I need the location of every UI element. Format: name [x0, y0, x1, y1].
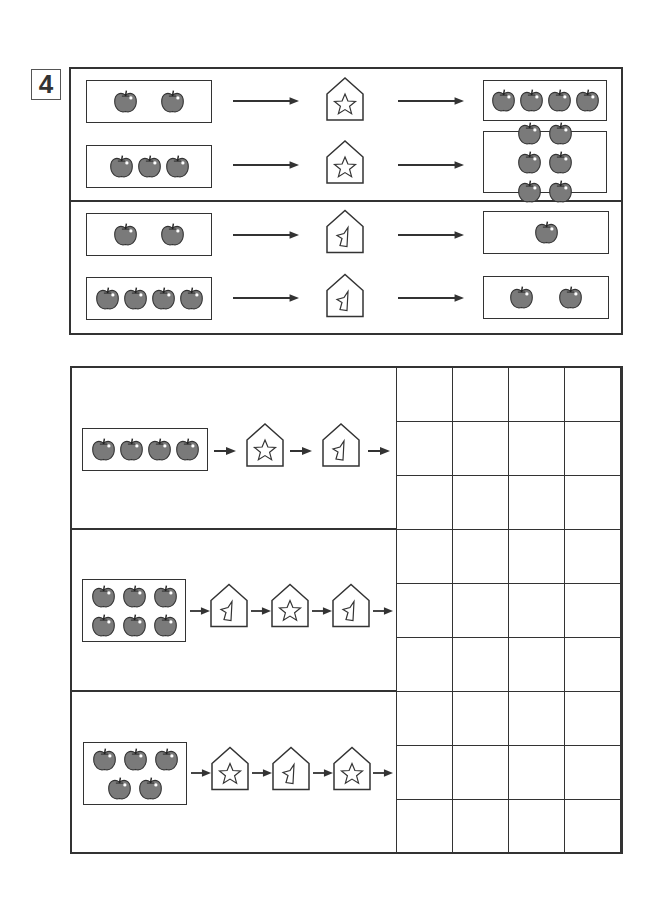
- answer-cell[interactable]: [397, 800, 453, 854]
- apple-icon: [90, 436, 117, 463]
- arrow-icon: [398, 230, 464, 240]
- answer-cell[interactable]: [565, 800, 621, 854]
- star-machine-icon: [332, 745, 372, 792]
- answer-cell[interactable]: [397, 692, 453, 746]
- apple-icon: [547, 149, 574, 176]
- arrow-icon: [373, 768, 393, 778]
- arrow-icon: [233, 230, 299, 240]
- answer-cell[interactable]: [397, 422, 453, 476]
- example-1-output: [483, 80, 607, 121]
- apple-icon: [174, 436, 201, 463]
- answer-cell[interactable]: [565, 422, 621, 476]
- arrow-icon: [252, 768, 272, 778]
- broken-star-machine-icon: [325, 208, 365, 255]
- apple-icon: [547, 120, 574, 147]
- answer-cell[interactable]: [453, 746, 509, 800]
- star-machine-icon: [210, 745, 250, 792]
- example-4-output: [483, 276, 609, 319]
- apple-icon: [557, 284, 584, 311]
- example-3-output: [483, 211, 609, 254]
- answer-cell[interactable]: [565, 476, 621, 530]
- apple-icon: [574, 87, 601, 114]
- apple-icon: [516, 178, 543, 205]
- answer-cell[interactable]: [565, 692, 621, 746]
- apple-icon: [122, 746, 149, 773]
- example-2-output: [483, 131, 607, 193]
- task-divider: [71, 528, 397, 530]
- apple-icon: [106, 775, 133, 802]
- answer-cell[interactable]: [509, 692, 565, 746]
- arrow-icon: [373, 606, 393, 616]
- answer-cell[interactable]: [509, 584, 565, 638]
- answer-cell[interactable]: [565, 530, 621, 584]
- answer-cell[interactable]: [509, 422, 565, 476]
- answer-cell[interactable]: [509, 746, 565, 800]
- answer-cell[interactable]: [509, 800, 565, 854]
- arrow-icon: [312, 606, 332, 616]
- apple-icon: [533, 219, 560, 246]
- broken-star-machine-icon: [271, 745, 311, 792]
- star-machine-icon: [270, 582, 310, 629]
- broken-star-machine-icon: [209, 582, 249, 629]
- arrow-icon: [214, 446, 236, 456]
- apple-icon: [121, 583, 148, 610]
- answer-cell[interactable]: [453, 422, 509, 476]
- answer-cell[interactable]: [509, 638, 565, 692]
- broken-star-machine-icon: [325, 272, 365, 319]
- apple-icon: [152, 583, 179, 610]
- answer-cell[interactable]: [453, 638, 509, 692]
- apple-icon: [178, 285, 205, 312]
- answer-cell[interactable]: [565, 746, 621, 800]
- answer-cell[interactable]: [397, 368, 453, 422]
- apple-icon: [108, 153, 135, 180]
- example-2-input: [86, 145, 212, 188]
- star-machine-icon: [325, 76, 365, 122]
- task-3-input: [83, 742, 187, 805]
- answer-cell[interactable]: [509, 476, 565, 530]
- apple-icon: [137, 775, 164, 802]
- apple-icon: [91, 746, 118, 773]
- arrow-icon: [190, 606, 210, 616]
- answer-cell[interactable]: [397, 584, 453, 638]
- apple-icon: [136, 153, 163, 180]
- arrow-icon: [290, 446, 312, 456]
- apple-icon: [153, 746, 180, 773]
- arrow-icon: [191, 768, 211, 778]
- arrow-icon: [233, 96, 299, 106]
- answer-cell[interactable]: [453, 584, 509, 638]
- apple-icon: [547, 178, 574, 205]
- apple-icon: [516, 120, 543, 147]
- arrow-icon: [366, 446, 392, 456]
- exercise-number: 4: [31, 69, 61, 100]
- answer-cell[interactable]: [565, 368, 621, 422]
- answer-cell[interactable]: [453, 530, 509, 584]
- answer-cell[interactable]: [453, 476, 509, 530]
- answer-cell[interactable]: [453, 692, 509, 746]
- apple-icon: [94, 285, 121, 312]
- arrow-icon: [313, 768, 333, 778]
- apple-icon: [490, 87, 517, 114]
- arrow-icon: [233, 293, 299, 303]
- apple-icon: [546, 87, 573, 114]
- answer-cell[interactable]: [397, 638, 453, 692]
- task-divider: [71, 690, 397, 692]
- answer-cell[interactable]: [453, 368, 509, 422]
- apple-icon: [90, 583, 117, 610]
- example-1-input: [86, 80, 212, 123]
- example-4-input: [86, 277, 212, 320]
- answer-cell[interactable]: [565, 584, 621, 638]
- apple-icon: [146, 436, 173, 463]
- apple-icon: [90, 612, 117, 639]
- answer-cell[interactable]: [453, 800, 509, 854]
- task-2-input: [82, 579, 186, 642]
- answer-cell[interactable]: [397, 476, 453, 530]
- star-machine-icon: [245, 422, 285, 468]
- answer-cell[interactable]: [509, 530, 565, 584]
- apple-icon: [122, 285, 149, 312]
- apple-icon: [150, 285, 177, 312]
- answer-cell[interactable]: [397, 746, 453, 800]
- answer-cell[interactable]: [397, 530, 453, 584]
- answer-cell[interactable]: [509, 368, 565, 422]
- answer-cell[interactable]: [565, 638, 621, 692]
- arrow-icon: [233, 160, 299, 170]
